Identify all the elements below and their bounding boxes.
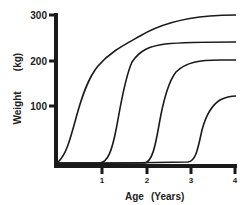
growth-chart: 300 200 100 1 2 3 4 Age (Years) Weight (… (0, 0, 250, 205)
y-axis-title: Weight (kg) (12, 53, 23, 125)
x-tick-label-1: 1 (100, 176, 105, 185)
x-tick-label-2: 2 (145, 176, 150, 185)
x-tick-label-3: 3 (189, 176, 194, 185)
x-axis-title-word: Age (125, 191, 144, 202)
y-axis-title-word: Weight (12, 91, 23, 125)
x-tick-label-4: 4 (233, 176, 238, 185)
curve-1 (58, 15, 236, 162)
y-tick-label-100: 100 (30, 101, 47, 112)
y-tick-label-300: 300 (30, 10, 47, 21)
y-axis-title-unit: (kg) (12, 53, 23, 71)
x-axis-title-unit: (Years) (151, 191, 184, 202)
y-tick-label-200: 200 (30, 56, 47, 67)
curve-4 (58, 96, 236, 164)
